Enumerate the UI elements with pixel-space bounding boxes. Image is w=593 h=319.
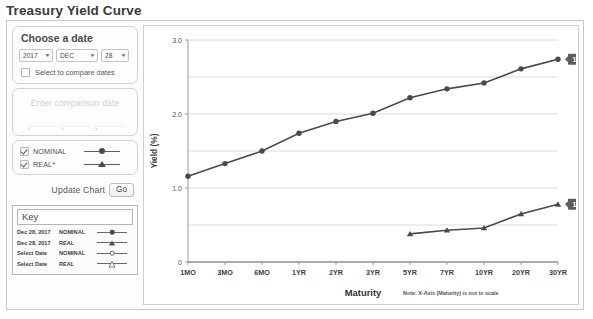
chevron-down-icon: ▼ — [120, 53, 126, 58]
nominal-sample-swatch — [84, 146, 120, 156]
callout-label: 12/28/2017 — [572, 201, 576, 208]
x-tick-label: 30YR — [549, 268, 568, 277]
sidebar: Choose a date 2017 ▼ DEC ▼ 28 ▼ Select t… — [7, 21, 143, 309]
key-row-type: REAL — [59, 261, 97, 267]
day-select-value: 28 — [105, 52, 112, 59]
compare-dates-checkbox[interactable] — [21, 68, 30, 77]
x-tick-label: 7YR — [440, 268, 455, 277]
chevron-down-icon: ▼ — [26, 126, 31, 132]
data-point-nominal — [296, 131, 301, 136]
year-select[interactable]: 2017 ▼ — [19, 49, 53, 62]
date-select-row: 2017 ▼ DEC ▼ 28 ▼ — [19, 49, 131, 62]
day-select[interactable]: 28 ▼ — [101, 49, 129, 62]
nominal-checkbox[interactable] — [20, 147, 29, 156]
y-axis-title: Yield (%) — [149, 133, 159, 168]
key-row-type: NOMINAL — [59, 229, 97, 235]
chevron-down-icon: ▼ — [44, 53, 50, 58]
data-point-nominal — [259, 148, 264, 153]
x-tick-label: 3MO — [217, 268, 233, 277]
go-button[interactable]: Go — [109, 183, 134, 197]
chevron-down-icon: ▼ — [60, 126, 65, 132]
key-row: Dec 28, 2017 NOMINAL — [17, 228, 133, 236]
y-tick-label: 2.0 — [172, 111, 182, 118]
page-title: Treasury Yield Curve — [0, 0, 593, 18]
comparison-day-select-disabled: ▼ — [94, 117, 124, 127]
key-row-marker-filled-circle — [97, 228, 127, 236]
y-tick-label: 3.0 — [172, 37, 182, 44]
comparison-date-panel: Enter comparison date ▼ ▼ ▼ — [12, 88, 138, 136]
data-point-nominal — [185, 173, 190, 178]
app-frame: Choose a date 2017 ▼ DEC ▼ 28 ▼ Select t… — [6, 20, 584, 310]
key-row-type: NOMINAL — [59, 250, 97, 256]
y-tick-label: 0 — [178, 259, 182, 266]
data-point-nominal — [222, 161, 227, 166]
update-chart-label: Update Chart — [52, 185, 106, 195]
update-chart-row: Update Chart Go — [12, 179, 138, 199]
key-row: Dec 28, 2017 REAL — [17, 239, 133, 247]
x-tick-label: 20YR — [512, 268, 531, 277]
comparison-date-placeholder: Enter comparison date — [19, 98, 131, 108]
month-select[interactable]: DEC ▼ — [56, 49, 98, 62]
key-row: Select Date REAL — [17, 260, 133, 268]
x-tick-label: 3YR — [366, 268, 381, 277]
chart-note: Note: X-Axis (Maturity) is not to scale — [403, 290, 499, 296]
chevron-down-icon: ▼ — [94, 126, 99, 132]
comparison-date-selects: ▼ ▼ ▼ — [19, 117, 131, 127]
key-title: Key — [17, 209, 133, 225]
key-row-marker-open-triangle — [97, 260, 127, 268]
data-point-nominal — [370, 111, 375, 116]
data-point-nominal — [444, 86, 449, 91]
series-toggle-real[interactable]: REAL* — [20, 159, 131, 169]
key-row-date: Select Date — [17, 261, 59, 267]
real-checkbox[interactable] — [20, 160, 29, 169]
callout-label: 12/28/2017 — [572, 56, 576, 63]
data-point-nominal — [333, 119, 338, 124]
key-row-date: Dec 28, 2017 — [17, 240, 59, 246]
x-tick-label: 2YR — [329, 268, 344, 277]
x-tick-label: 1YR — [292, 268, 307, 277]
x-axis-title: Maturity — [345, 287, 382, 298]
x-tick-label: 6MO — [254, 268, 270, 277]
month-select-value: DEC — [60, 52, 74, 59]
series-toggle-nominal[interactable]: NOMINAL — [20, 146, 131, 156]
key-box: Key Dec 28, 2017 NOMINAL Dec 28, 2017 RE… — [12, 205, 138, 275]
y-tick-label: 1.0 — [172, 185, 182, 192]
key-row-date: Select Date — [17, 250, 59, 256]
nominal-label: NOMINAL — [33, 147, 80, 156]
choose-date-heading: Choose a date — [19, 32, 131, 44]
chevron-down-icon: ▼ — [89, 53, 95, 58]
yield-curve-chart: 01.02.03.0Yield (%)1MO3MO6MO1YR2YR3YR5YR… — [144, 26, 576, 306]
data-point-nominal — [555, 57, 560, 62]
key-row-date: Dec 28, 2017 — [17, 229, 59, 235]
data-point-nominal — [407, 95, 412, 100]
choose-date-panel: Choose a date 2017 ▼ DEC ▼ 28 ▼ Select t… — [12, 26, 138, 84]
key-row: Select Date NOMINAL — [17, 249, 133, 257]
data-point-nominal — [518, 66, 523, 71]
compare-dates-label: Select to compare dates — [35, 68, 115, 77]
compare-dates-row[interactable]: Select to compare dates — [19, 68, 131, 77]
year-select-value: 2017 — [23, 52, 38, 59]
x-tick-label: 5YR — [403, 268, 418, 277]
key-row-marker-open-circle — [97, 249, 127, 257]
key-row-type: REAL — [59, 240, 97, 246]
comparison-month-select-disabled: ▼ — [60, 117, 90, 127]
real-sample-swatch — [84, 159, 120, 169]
chart-panel: 01.02.03.0Yield (%)1MO3MO6MO1YR2YR3YR5YR… — [143, 25, 579, 305]
comparison-year-select-disabled: ▼ — [26, 117, 56, 127]
x-tick-label: 1MO — [180, 268, 196, 277]
real-label: REAL* — [33, 160, 80, 169]
data-point-nominal — [481, 80, 486, 85]
x-tick-label: 10YR — [475, 268, 494, 277]
series-toggle-panel: NOMINAL REAL* — [12, 140, 138, 175]
key-row-marker-filled-triangle — [97, 239, 127, 247]
